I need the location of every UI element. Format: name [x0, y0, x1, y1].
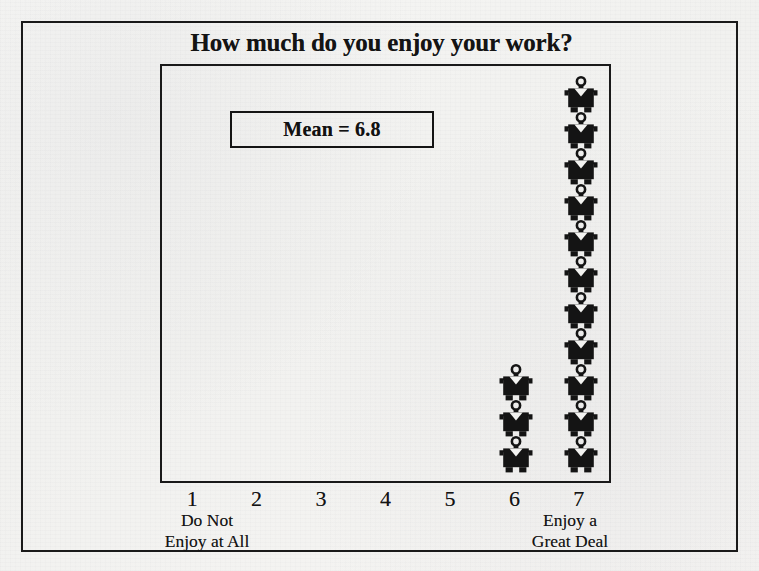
person-icon — [494, 364, 538, 401]
x-axis-tick-labels: 1234567 — [160, 486, 611, 512]
plot-area-box: Mean = 6.8 — [160, 64, 611, 483]
x-tick-5: 5 — [428, 486, 472, 512]
scale-anchor-low: Do Not Enjoy at All — [112, 510, 302, 552]
person-icon — [559, 76, 603, 113]
x-tick-3: 3 — [299, 486, 343, 512]
person-icon — [559, 148, 603, 185]
x-tick-4: 4 — [364, 486, 408, 512]
person-icon — [559, 328, 603, 365]
figure-outer-frame: How much do you enjoy your work? Mean = … — [21, 21, 738, 552]
person-icon — [559, 112, 603, 149]
pictogram-stack-7 — [557, 77, 605, 473]
x-tick-6: 6 — [492, 486, 536, 512]
x-tick-7: 7 — [557, 486, 601, 512]
x-tick-1: 1 — [170, 486, 214, 512]
pictogram-layer — [162, 66, 609, 481]
person-icon — [559, 220, 603, 257]
person-icon — [559, 292, 603, 329]
person-icon — [494, 400, 538, 437]
person-icon — [559, 436, 603, 473]
pictogram-stack-6 — [492, 365, 540, 473]
person-icon — [494, 436, 538, 473]
person-icon — [559, 184, 603, 221]
scale-anchor-high: Enjoy a Great Deal — [475, 510, 665, 552]
person-icon — [559, 364, 603, 401]
person-icon — [559, 256, 603, 293]
person-icon — [559, 400, 603, 437]
x-tick-2: 2 — [235, 486, 279, 512]
chart-title: How much do you enjoy your work? — [23, 29, 740, 57]
